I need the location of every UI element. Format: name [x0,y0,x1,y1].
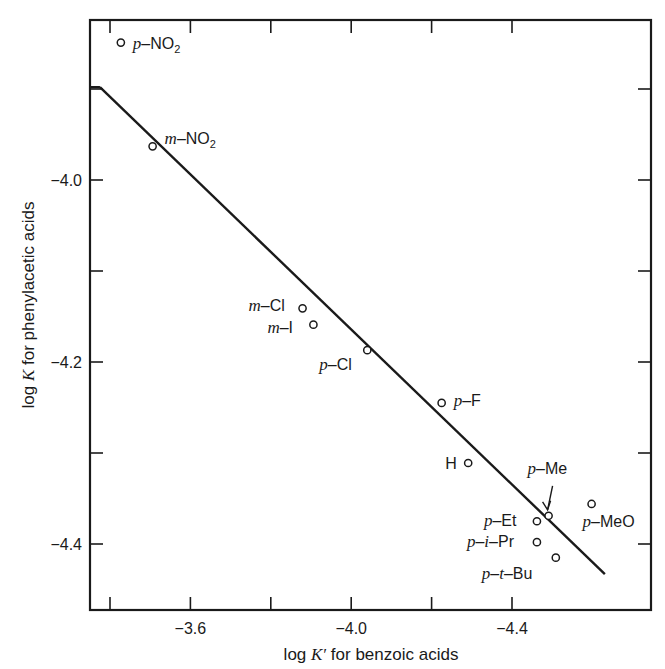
x-tick-label: −4.0 [335,620,367,637]
data-point-circle [552,554,559,561]
y-tick-label: −4.4 [50,536,82,553]
point-label: p–i–Pr [466,532,515,551]
point-label: m–I [267,318,293,337]
regression-line-segment [100,87,605,574]
axis-ticks [90,20,651,610]
y-tick-label: −4.2 [50,354,82,371]
plot-border [90,20,651,610]
data-point-circle [117,39,124,46]
y-tick-label: −4.0 [50,172,82,189]
p-me-arrow [543,486,553,510]
point-label: p–MeO [582,512,635,531]
x-axis-label: log K′ for benzoic acids [284,645,459,664]
point-label: p–t–Bu [481,564,533,583]
data-point-circle [588,500,595,507]
data-point-circle [533,539,540,546]
regression-line [90,87,605,574]
y-axis-label: log K for phenylacetic acids [19,202,38,409]
point-labels: p–NO2m–NO2m–Clm–Ip–Clp–FHp–Mep–Etp–i–Prp… [132,34,635,583]
data-point-circle [533,518,540,525]
point-label: p–F [453,391,481,410]
data-point-circle [438,399,445,406]
data-point-circle [299,305,306,312]
data-point-circle [364,347,371,354]
data-point-circle [545,512,552,519]
point-label: p–Me [527,459,568,478]
point-label: p–NO2 [132,34,181,55]
data-point-circle [310,321,317,328]
data-points [117,39,595,561]
data-point-circle [149,143,156,150]
data-point-circle [465,459,472,466]
point-label: m–Cl [249,296,285,315]
point-label: p–Et [483,511,517,530]
x-tick-label: −3.6 [175,620,207,637]
point-label: m–NO2 [165,129,216,150]
plot-frame [90,20,651,610]
x-tick-label: −4.4 [496,620,528,637]
scatter-chart: −3.6−4.0−4.4−4.0−4.2−4.4 p–NO2m–NO2m–Clm… [0,0,665,669]
point-label: H [445,455,457,472]
point-label: p–Cl [318,355,352,374]
